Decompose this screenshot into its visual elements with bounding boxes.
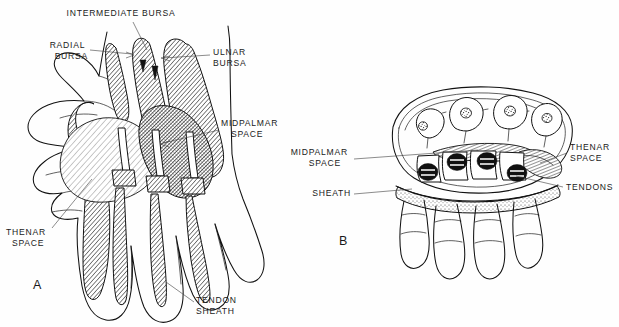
panel-letter-b: B <box>339 234 348 248</box>
label-sheath-b: SHEATH <box>312 188 351 198</box>
figure-container: INTERMEDIATE BURSA RADIAL BURSA ULNAR BU… <box>0 0 619 327</box>
anatomical-figure: INTERMEDIATE BURSA RADIAL BURSA ULNAR BU… <box>0 0 619 327</box>
label-radial-bursa: RADIAL BURSA <box>50 40 88 61</box>
tendon-cluster-4 <box>507 165 527 182</box>
label-tendon-sheath: TENDON SHEATH <box>196 295 240 316</box>
panel-letter-a: A <box>33 278 42 292</box>
tendon-cluster-3 <box>477 153 497 170</box>
label-thenar-space-a: THENAR SPACE <box>6 227 49 248</box>
label-tendons-b: TENDONS <box>566 182 613 192</box>
tendon-cluster-1 <box>418 164 438 181</box>
label-ulnar-bursa: ULNAR BURSA <box>213 47 249 68</box>
label-intermediate-bursa: INTERMEDIATE BURSA <box>67 8 176 18</box>
tendon-cluster-2 <box>447 154 467 171</box>
